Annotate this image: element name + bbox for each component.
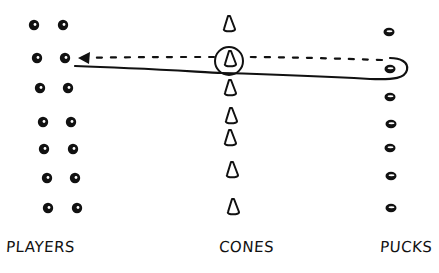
cones-group [224, 16, 239, 214]
cone-icon [227, 162, 238, 177]
player-icon [32, 53, 42, 63]
cone-icon [225, 51, 236, 66]
puck-icon [385, 65, 396, 73]
player-icon [39, 144, 49, 154]
arrowhead-icon [78, 52, 90, 64]
cone-icon [226, 108, 237, 123]
player-icon [68, 144, 78, 154]
player-icon [58, 20, 68, 30]
player-icon [43, 203, 53, 213]
player-icon [72, 203, 82, 213]
puck-icon [386, 204, 397, 212]
cone-icon [225, 80, 236, 95]
player-icon [35, 83, 45, 93]
players-label: PLAYERS [5, 238, 75, 256]
puck-icon [386, 120, 397, 128]
cone-icon [225, 130, 236, 145]
player-icon [29, 20, 39, 30]
player-icon [70, 173, 80, 183]
player-icon [38, 117, 48, 127]
drill-diagram [0, 0, 439, 273]
pucks-group [384, 28, 397, 212]
pucks-label: PUCKS [379, 238, 433, 256]
cones-label: CONES [218, 238, 274, 256]
puck-icon [385, 144, 396, 152]
players-group [29, 20, 82, 213]
player-icon [66, 117, 76, 127]
player-icon [60, 53, 70, 63]
puck-icon [386, 172, 397, 180]
puck-icon [385, 93, 396, 101]
cone-icon [228, 199, 239, 214]
cone-icon [224, 16, 235, 31]
player-icon [42, 173, 52, 183]
puck-icon [384, 28, 395, 36]
player-icon [63, 83, 73, 93]
